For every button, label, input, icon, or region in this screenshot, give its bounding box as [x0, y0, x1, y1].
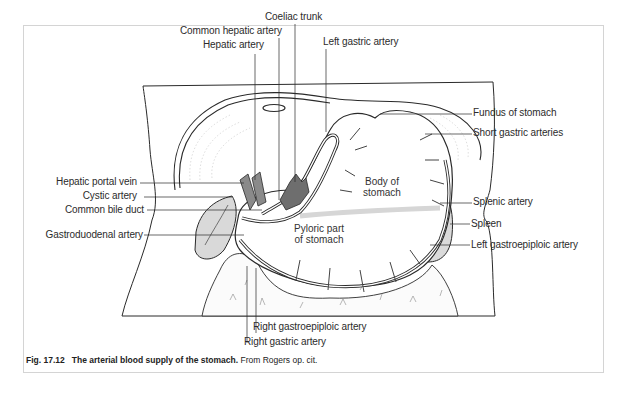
- label-common-hepatic-artery: Common hepatic artery: [180, 25, 282, 37]
- organ-label-body-of-stomach: Body of stomach: [352, 176, 412, 198]
- label-splenic-artery: Splenic artery: [473, 196, 533, 208]
- figure-source: From Rogers op. cit.: [240, 355, 317, 365]
- label-right-gastroepiploic-artery: Right gastroepiploic artery: [253, 321, 366, 333]
- label-coeliac-trunk: Coeliac trunk: [265, 11, 322, 23]
- label-short-gastric-arteries: Short gastric arteries: [473, 127, 563, 139]
- figure-number: Fig. 17.12: [26, 355, 65, 365]
- gallbladder: [195, 196, 236, 259]
- label-hepatic-portal-vein: Hepatic portal vein: [20, 176, 137, 188]
- label-fundus-of-stomach: Fundus of stomach: [473, 107, 556, 119]
- label-common-bile-duct: Common bile duct: [20, 204, 144, 216]
- figure-title: The arterial blood supply of the stomach…: [72, 355, 238, 365]
- figure-caption: Fig. 17.12 The arterial blood supply of …: [26, 355, 317, 365]
- label-right-gastric-artery: Right gastric artery: [244, 336, 326, 348]
- stomach: [235, 110, 452, 287]
- label-gastroduodenal-artery: Gastroduodenal artery: [20, 229, 143, 241]
- label-hepatic-artery: Hepatic artery: [203, 39, 264, 51]
- label-cystic-artery: Cystic artery: [20, 190, 137, 202]
- label-spleen: Spleen: [471, 218, 502, 230]
- label-left-gastric-artery: Left gastric artery: [323, 36, 398, 48]
- organ-label-pyloric-part: Pyloric part of stomach: [284, 223, 354, 245]
- label-left-gastroepiploic-artery: Left gastroepiploic artery: [471, 239, 578, 251]
